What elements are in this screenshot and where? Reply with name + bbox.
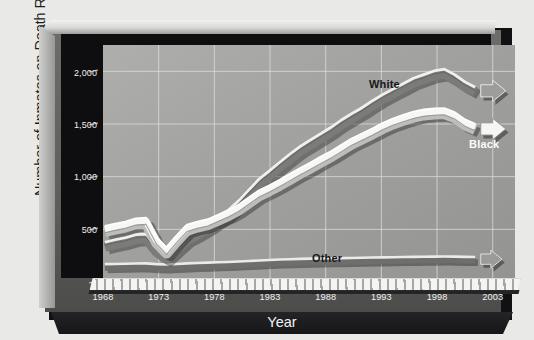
chart-frame: 05001,0001,5002,000 19681973197819831988…	[39, 20, 512, 320]
x-tick-label: 1978	[204, 292, 225, 302]
x-axis-title: Year	[51, 314, 513, 330]
x-tick-label: 2003	[482, 292, 503, 302]
x-tick-label: 1973	[148, 292, 169, 302]
y-tick-label: 2,000	[51, 68, 97, 78]
x-tick-label: 1983	[260, 292, 281, 302]
series-label-white: White	[369, 78, 400, 90]
frame-top-bevel	[39, 20, 495, 34]
x-axis-ticks: 19681973197819831988199319982003	[103, 292, 515, 308]
y-axis-ticks: 05001,0001,5002,000	[39, 45, 97, 282]
x-axis-title-band: Year	[51, 312, 513, 334]
plot-area	[103, 45, 515, 282]
axis-base-hatching	[89, 278, 520, 291]
x-tick-label: 1968	[93, 292, 114, 302]
chart-figure: Number of Inmates on Death Row 05001,000…	[0, 0, 534, 340]
x-tick-label: 1993	[371, 292, 392, 302]
data-series-layer	[103, 45, 515, 282]
series-label-other: Other	[312, 252, 342, 264]
x-tick-label: 1988	[315, 292, 336, 302]
series-label-black: Black	[469, 138, 499, 150]
x-tick-label: 1998	[427, 292, 448, 302]
